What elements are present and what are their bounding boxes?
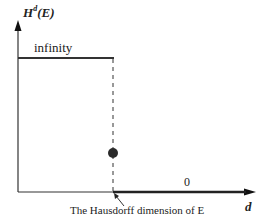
infinity-label: infinity [34, 40, 72, 56]
value-at-dimension-dot [108, 148, 118, 158]
x-axis-label: d [245, 199, 252, 215]
caption: The Hausdorff dimension of E [70, 204, 204, 216]
y-axis-arrow-icon [15, 20, 22, 31]
zero-label: 0 [184, 175, 190, 190]
y-axis-label: Hd(E) [23, 4, 54, 21]
hausdorff-measure-diagram [0, 0, 266, 224]
